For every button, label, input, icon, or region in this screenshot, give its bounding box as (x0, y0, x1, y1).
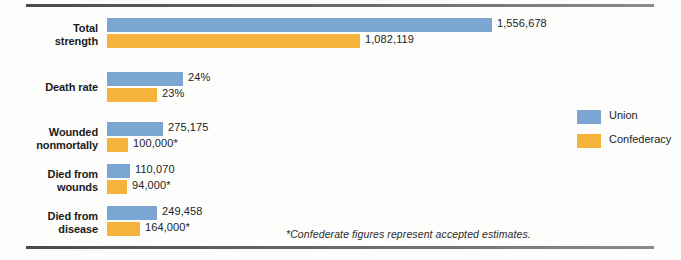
bar-value-union: 249,458 (162, 205, 202, 217)
bar-confederacy[interactable] (107, 180, 127, 194)
footnote-text: *Confederate figures represent accepted … (286, 228, 531, 240)
bar-union[interactable] (107, 206, 157, 220)
category-label-line2: disease (58, 223, 98, 235)
bar-union[interactable] (107, 164, 130, 178)
legend-label-confederacy: Confederacy (609, 133, 671, 145)
category-label-line2: nonmortally (36, 139, 98, 151)
bar-value-union: 275,175 (168, 121, 208, 133)
legend-swatch-union-icon (577, 110, 601, 124)
bar-union[interactable] (107, 72, 183, 86)
bar-value-union: 1,556,678 (497, 17, 547, 29)
bar-union[interactable] (107, 18, 492, 32)
bar-value-confederacy: 94,000* (132, 179, 171, 191)
bottom-divider-rule (26, 246, 654, 249)
category-label-line2: strength (55, 35, 98, 47)
legend-swatch-confederacy-icon (577, 134, 601, 148)
bar-value-confederacy: 100,000* (133, 137, 178, 149)
bar-confederacy[interactable] (107, 88, 157, 102)
category-label-died-from-disease: Died from disease (0, 210, 98, 236)
category-label-line1: Died from (48, 210, 98, 222)
category-label-line1: Wounded (49, 126, 98, 138)
category-label-death-rate: Death rate (0, 81, 98, 94)
category-label-line1: Died from (48, 168, 98, 180)
category-label-wounded-nonmortally: Wounded nonmortally (0, 126, 98, 152)
plot-area: Total strength 1,556,678 1,082,119 Death… (0, 0, 681, 260)
bar-value-union: 24% (188, 71, 210, 83)
legend-label-union: Union (609, 109, 638, 121)
category-label-died-from-wounds: Died from wounds (0, 168, 98, 194)
bar-confederacy[interactable] (107, 34, 360, 48)
category-label-line2: wounds (57, 181, 98, 193)
category-label-line1: Total (73, 22, 98, 34)
bar-value-confederacy: 164,000* (145, 221, 190, 233)
bar-union[interactable] (107, 122, 163, 136)
civil-war-casualties-chart: Total strength 1,556,678 1,082,119 Death… (0, 0, 681, 260)
category-label-line1: Death rate (45, 81, 98, 93)
bar-value-union: 110,070 (135, 163, 175, 175)
bar-value-confederacy: 23% (162, 87, 184, 99)
bar-confederacy[interactable] (107, 138, 128, 152)
bar-value-confederacy: 1,082,119 (365, 33, 414, 45)
category-label-total-strength: Total strength (0, 22, 98, 48)
bar-confederacy[interactable] (107, 222, 140, 236)
